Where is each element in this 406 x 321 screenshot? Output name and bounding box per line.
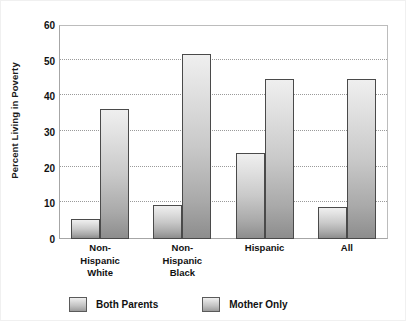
x-axis-category-labels: Non-HispanicWhiteNon-HispanicBlackHispan… <box>59 242 388 288</box>
legend-swatch-icon <box>202 297 220 312</box>
bar-non-hispanic-black-both-parents <box>153 205 182 239</box>
legend-label: Both Parents <box>96 299 158 310</box>
x-label-non-hispanic-black: Non-HispanicBlack <box>141 242 223 280</box>
y-tick-label-30: 30 <box>9 127 55 138</box>
legend-label: Mother Only <box>229 299 287 310</box>
bar-non-hispanic-black-mother-only <box>182 54 211 239</box>
x-label-line: Non- <box>141 242 223 255</box>
bar-non-hispanic-white-mother-only <box>100 109 129 239</box>
bar-all-mother-only <box>347 79 376 240</box>
chart-legend: Both ParentsMother Only <box>59 292 389 316</box>
poverty-bar-chart: Percent Living in Poverty 0102030405060 … <box>0 0 406 321</box>
y-tick-label-50: 50 <box>9 55 55 66</box>
x-label-line: Non- <box>59 242 141 255</box>
bar-non-hispanic-white-both-parents <box>71 219 100 239</box>
bar-hispanic-mother-only <box>265 79 294 240</box>
x-label-line: White <box>59 267 141 280</box>
x-label-non-hispanic-white: Non-HispanicWhite <box>59 242 141 280</box>
legend-item-mother-only[interactable]: Mother Only <box>202 297 287 312</box>
bars-layer <box>59 25 388 239</box>
x-label-hispanic: Hispanic <box>224 242 306 255</box>
legend-item-both-parents[interactable]: Both Parents <box>69 297 158 312</box>
x-label-line: Black <box>141 267 223 280</box>
y-tick-label-0: 0 <box>9 234 55 245</box>
bar-all-both-parents <box>318 207 347 239</box>
x-label-line: All <box>306 242 388 255</box>
x-label-all: All <box>306 242 388 255</box>
bar-hispanic-both-parents <box>236 153 265 239</box>
y-axis-tick-labels: 0102030405060 <box>7 1 55 321</box>
y-tick-label-60: 60 <box>9 20 55 31</box>
x-label-line: Hispanic <box>141 255 223 268</box>
y-tick-label-40: 40 <box>9 91 55 102</box>
y-tick-label-10: 10 <box>9 198 55 209</box>
legend-swatch-icon <box>69 297 87 312</box>
x-label-line: Hispanic <box>59 255 141 268</box>
y-tick-label-20: 20 <box>9 162 55 173</box>
x-label-line: Hispanic <box>224 242 306 255</box>
